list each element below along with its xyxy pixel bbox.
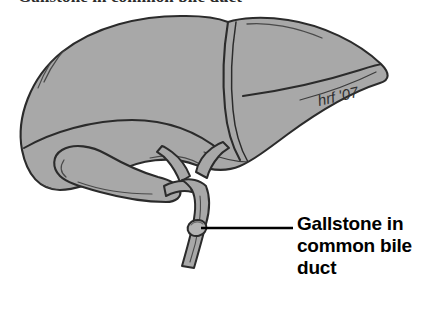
callout-line-1: Gallstone in: [297, 213, 422, 235]
liver-gallstone-illustration: hrf '07: [0, 0, 422, 329]
gallstone-callout-label: Gallstone in common bile duct: [297, 213, 422, 279]
callout-line-2: common bile: [297, 235, 422, 257]
figure-caption: Gallstone in common bile duct: [18, 0, 242, 7]
callout-line-3: duct: [297, 257, 422, 279]
figure-caption-clip: Gallstone in common bile duct: [0, 0, 422, 7]
